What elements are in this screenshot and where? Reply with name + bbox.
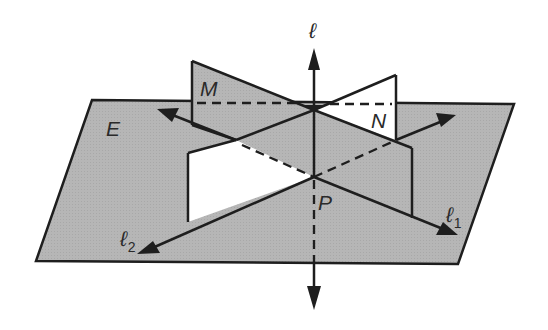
geometry-diagram: ℓ M N E P ℓ1 ℓ2: [0, 0, 548, 330]
label-line-l2-sub: 2: [128, 239, 136, 255]
label-plane-N: N: [371, 110, 386, 131]
label-plane-M: M: [200, 78, 218, 99]
label-line-l2: ℓ2: [120, 228, 135, 249]
label-plane-E: E: [106, 118, 120, 139]
diagram-canvas: [0, 0, 548, 330]
label-line-l1-base: ℓ: [446, 203, 453, 226]
label-line-l: ℓ: [309, 20, 316, 41]
label-point-P: P: [318, 192, 332, 213]
label-line-l2-base: ℓ: [120, 227, 127, 250]
line-l-arrow-up-icon: [308, 48, 320, 70]
label-line-l1-sub: 1: [454, 215, 462, 231]
line-l-arrow-down-icon: [307, 286, 321, 310]
label-line-l1: ℓ1: [446, 204, 461, 225]
